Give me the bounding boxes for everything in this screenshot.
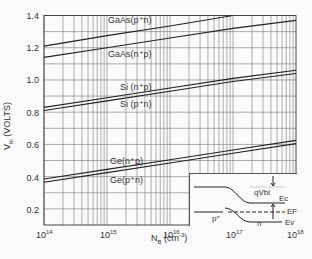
y-tick-0.8: 0.8 <box>15 108 39 118</box>
y-axis-units: (VOLTS) <box>2 102 12 139</box>
label-si-pn: Si (p⁺n) <box>120 100 152 109</box>
x-axis-title: NB (cm-3) <box>151 232 187 245</box>
label-ev: Ev <box>285 218 294 227</box>
label-ge-pn: Ge(p⁺n) <box>110 176 143 185</box>
label-p-plus: p⁺ <box>212 214 220 223</box>
label-n: n <box>257 219 261 228</box>
y-axis-title: Vbi (VOLTS) <box>2 102 14 150</box>
y-tick-1.2: 1.2 <box>15 43 39 53</box>
label-ec: Ec <box>279 194 288 203</box>
x-tick-1e14: 1014 <box>36 229 53 240</box>
y-tick-0.6: 0.6 <box>15 140 39 150</box>
label-gaas-pn: GaAs(p⁺n) <box>108 16 152 25</box>
label-qvbi: qVbi <box>254 188 270 197</box>
label-gaas-np: GaAs(n⁺p) <box>108 50 152 59</box>
label-ge-np: Ge(n⁺p) <box>110 157 143 166</box>
y-tick-1.0: 1.0 <box>15 75 39 85</box>
x-tick-1e15: 1015 <box>100 229 117 240</box>
x-tick-1e18: 1018 <box>287 229 304 240</box>
y-axis-var: V <box>2 144 12 150</box>
y-tick-1.4: 1.4 <box>15 11 39 21</box>
band-diagram-inset: qVbi Ec EF Ev p⁺ n <box>189 173 297 226</box>
y-tick-0.4: 0.4 <box>15 173 39 183</box>
label-ef: EF <box>287 207 297 216</box>
y-tick-0.2: 0.2 <box>15 205 39 215</box>
y-axis-sub: bi <box>8 139 14 144</box>
x-tick-1e17: 1017 <box>226 229 243 240</box>
conduction-band <box>194 187 285 203</box>
label-si-np: Si (n⁺p) <box>120 83 152 92</box>
